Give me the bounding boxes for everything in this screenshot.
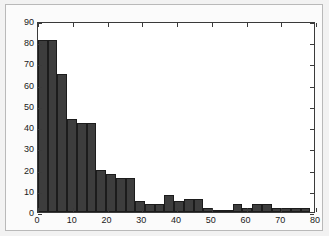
x-axis-tick bbox=[73, 208, 74, 212]
histogram-bar bbox=[252, 204, 262, 212]
x-axis-tick-label: 80 bbox=[310, 215, 320, 225]
x-axis-tick bbox=[142, 208, 143, 212]
x-axis-tick bbox=[316, 23, 317, 27]
histogram-bar bbox=[174, 201, 184, 212]
x-axis-tick bbox=[281, 208, 282, 212]
y-axis-tick-label: 40 bbox=[24, 124, 34, 133]
histogram-bar bbox=[262, 204, 272, 212]
histogram-bar bbox=[301, 208, 311, 212]
histogram-bar bbox=[145, 204, 155, 212]
y-axis-tick bbox=[310, 65, 314, 66]
y-axis-tick bbox=[38, 87, 42, 88]
x-axis-tick bbox=[177, 208, 178, 212]
x-axis-tick bbox=[142, 23, 143, 27]
x-axis-tick bbox=[38, 23, 39, 27]
histogram-bar bbox=[96, 170, 106, 212]
histogram-bar bbox=[106, 174, 116, 212]
y-axis-tick bbox=[310, 150, 314, 151]
x-axis-tick-label: 10 bbox=[67, 215, 77, 225]
histogram-bar bbox=[135, 201, 145, 212]
histogram-bar bbox=[126, 178, 136, 212]
y-axis-tick bbox=[38, 44, 42, 45]
x-axis-tick-label: 30 bbox=[136, 215, 146, 225]
y-axis-tick bbox=[38, 193, 42, 194]
histogram-bar bbox=[67, 119, 77, 212]
y-axis-tick bbox=[38, 129, 42, 130]
x-axis-tick-labels: 01020304050607080 bbox=[37, 215, 315, 229]
histogram-bar bbox=[291, 208, 301, 212]
histogram-bar bbox=[48, 40, 58, 212]
figure-frame: 0102030405060708090 01020304050607080 bbox=[5, 4, 323, 231]
histogram-bar bbox=[164, 195, 174, 212]
x-axis-tick bbox=[177, 23, 178, 27]
x-axis-tick-label: 0 bbox=[34, 215, 39, 225]
x-axis-tick bbox=[281, 23, 282, 27]
histogram-bar bbox=[213, 210, 223, 212]
y-axis-tick bbox=[310, 172, 314, 173]
y-axis-tick bbox=[310, 193, 314, 194]
histogram-bar bbox=[57, 74, 67, 212]
y-axis-tick-label: 90 bbox=[24, 18, 34, 27]
x-axis-tick-label: 60 bbox=[240, 215, 250, 225]
y-axis-tick bbox=[310, 44, 314, 45]
y-axis-tick bbox=[310, 108, 314, 109]
y-axis-tick-label: 70 bbox=[24, 60, 34, 69]
y-axis-tick bbox=[38, 150, 42, 151]
x-axis-tick bbox=[212, 23, 213, 27]
x-axis-tick bbox=[247, 208, 248, 212]
y-axis-tick-label: 30 bbox=[24, 145, 34, 154]
histogram-bar bbox=[184, 199, 194, 212]
y-axis-tick-label: 10 bbox=[24, 188, 34, 197]
histogram-bar bbox=[87, 123, 97, 212]
histogram-bar bbox=[223, 210, 233, 212]
x-axis-tick-label: 50 bbox=[206, 215, 216, 225]
x-axis-tick bbox=[247, 23, 248, 27]
y-axis-tick bbox=[38, 108, 42, 109]
y-axis-tick bbox=[310, 129, 314, 130]
y-axis-tick bbox=[310, 87, 314, 88]
y-axis-tick bbox=[38, 65, 42, 66]
histogram-bars bbox=[38, 23, 314, 212]
histogram-bar bbox=[281, 208, 291, 212]
x-axis-tick bbox=[108, 23, 109, 27]
x-axis-tick-label: 70 bbox=[275, 215, 285, 225]
x-axis-tick bbox=[316, 208, 317, 212]
x-axis-tick bbox=[73, 23, 74, 27]
y-axis-tick-label: 60 bbox=[24, 82, 34, 91]
y-axis-tick-label: 0 bbox=[29, 209, 34, 218]
x-axis-tick-label: 40 bbox=[171, 215, 181, 225]
histogram-bar bbox=[155, 204, 165, 212]
histogram-bar bbox=[272, 208, 282, 212]
x-axis-tick bbox=[108, 208, 109, 212]
y-axis-tick-labels: 0102030405060708090 bbox=[9, 22, 34, 213]
plot-area bbox=[37, 22, 315, 213]
x-axis-tick bbox=[38, 208, 39, 212]
y-axis-tick bbox=[38, 172, 42, 173]
x-axis-tick bbox=[212, 208, 213, 212]
histogram-bar bbox=[77, 123, 87, 212]
x-axis-tick-label: 20 bbox=[101, 215, 111, 225]
histogram-bar bbox=[194, 199, 204, 212]
y-axis-tick bbox=[310, 23, 314, 24]
histogram-bar bbox=[116, 178, 126, 212]
y-axis-tick-label: 50 bbox=[24, 103, 34, 112]
histogram-bar bbox=[233, 204, 243, 212]
y-axis-tick-label: 20 bbox=[24, 167, 34, 176]
y-axis-tick-label: 80 bbox=[24, 39, 34, 48]
histogram-screenshot: 0102030405060708090 01020304050607080 bbox=[0, 0, 329, 236]
